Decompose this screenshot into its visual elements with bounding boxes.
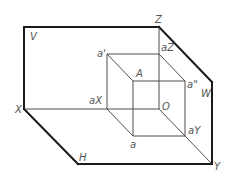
x-axis-label: X	[14, 104, 23, 115]
az-to-a-double-prime-line	[159, 54, 185, 81]
v-plane-label: V	[30, 31, 38, 42]
point-ay-label: aY	[188, 125, 201, 136]
point-a-double-prime-label: a"	[187, 79, 198, 90]
w-plane-top-edge	[159, 27, 212, 82]
y-axis-label: Y	[214, 161, 221, 172]
point-a-label: a	[130, 139, 136, 150]
point-A-label: A	[135, 68, 143, 79]
ax-to-a-line	[107, 109, 133, 136]
a-prime-to-A-line	[107, 54, 133, 81]
h-plane-label: H	[79, 152, 87, 163]
projection-diagram: V H W X Y Z O A a' a a" aX aY aZ	[0, 0, 232, 179]
w-plane-label: W	[201, 88, 212, 99]
z-axis-label: Z	[154, 14, 163, 25]
origin-label: O	[162, 101, 170, 112]
point-ax-label: aX	[89, 95, 103, 106]
y-axis-line	[159, 109, 212, 164]
h-plane-left-edge	[24, 109, 78, 164]
point-az-label: aZ	[161, 42, 175, 53]
point-a-prime-label: a'	[97, 48, 106, 59]
